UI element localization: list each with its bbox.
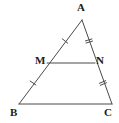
segment-ab	[19, 20, 82, 104]
vertex-label-c: C	[104, 107, 112, 118]
geometry-figure: A B C M N	[0, 0, 119, 123]
vertex-label-n: N	[96, 55, 104, 66]
vertex-label-a: A	[77, 2, 85, 13]
vertex-label-m: M	[35, 55, 45, 66]
vertex-label-b: B	[10, 107, 17, 118]
